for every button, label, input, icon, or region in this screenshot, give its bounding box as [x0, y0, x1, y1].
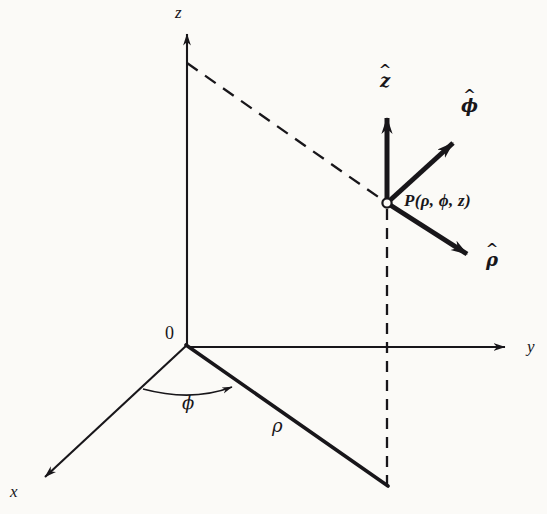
top-dashed-line: [187, 63, 384, 201]
phi-angle-label: ϕ: [182, 394, 194, 412]
point-p-label: P(ρ, ϕ, z): [404, 192, 471, 209]
z-hat-caret: ^: [379, 63, 392, 78]
x-axis-line: [45, 345, 187, 477]
cylindrical-coordinates-figure: z y x 0 ϕ ρ P(ρ, ϕ, z) ^ z ^ ϕ ^ ρ: [0, 0, 547, 514]
origin-label: 0: [165, 324, 174, 342]
z-hat-label: ^ z: [380, 72, 390, 90]
x-axis-label: x: [10, 483, 18, 500]
figure-canvas: [0, 0, 547, 514]
rho-segment: [186, 345, 388, 486]
phi-hat-caret: ^: [463, 88, 476, 103]
rho-length-label: ρ: [272, 417, 283, 435]
rho-hat-label: ^ ρ: [486, 251, 498, 269]
point-p-marker: [382, 198, 391, 207]
z-axis-label: z: [175, 4, 182, 21]
phi-hat-label: ^ ϕ: [461, 97, 478, 115]
y-axis-label: y: [527, 338, 535, 355]
rho-hat-vector: [387, 203, 467, 254]
rho-hat-caret: ^: [486, 242, 499, 257]
